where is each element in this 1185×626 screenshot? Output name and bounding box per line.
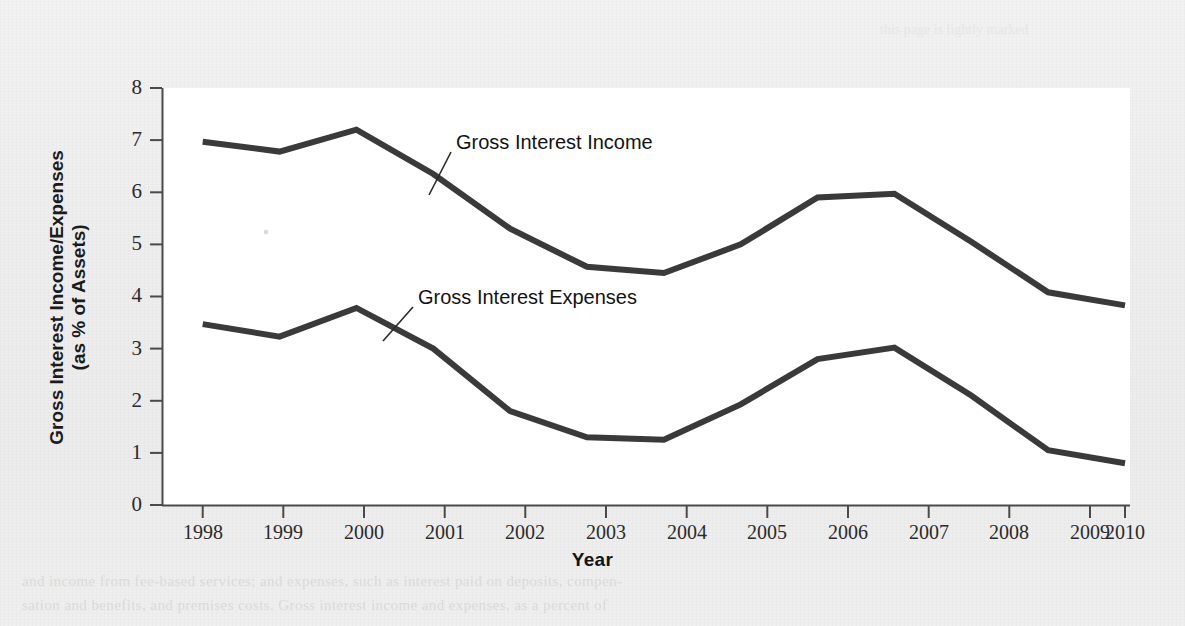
x-axis-title: Year — [0, 549, 1185, 571]
y-axis-title-line2: (as % of Assets) — [68, 150, 90, 445]
x-tick-label: 1998 — [163, 521, 243, 544]
x-tick-label: 2005 — [727, 521, 807, 544]
x-tick-label: 1999 — [243, 521, 323, 544]
y-tick-label: 8 — [108, 75, 142, 100]
y-tick-label: 4 — [108, 283, 142, 308]
x-tick-label: 2007 — [889, 521, 969, 544]
y-tick-label: 0 — [108, 492, 142, 517]
x-tick-label: 2001 — [405, 521, 485, 544]
y-tick-label: 6 — [108, 179, 142, 204]
y-tick-label: 5 — [108, 231, 142, 256]
x-tick-label: 2004 — [647, 521, 727, 544]
y-tick-label: 2 — [108, 388, 142, 413]
y-tick-marks — [150, 88, 162, 505]
x-tick-label: 2003 — [566, 521, 646, 544]
y-axis-title-line1: Gross Interest Income/Expenses — [46, 150, 67, 445]
x-tick-label: 2010 — [1085, 521, 1165, 544]
chart-figure: Gross Interest Income/Expenses (as % of … — [0, 0, 1185, 626]
x-tick-label: 2002 — [485, 521, 565, 544]
x-tick-label: 2006 — [808, 521, 888, 544]
y-tick-label: 3 — [108, 336, 142, 361]
y-axis-title: Gross Interest Income/Expenses (as % of … — [44, 88, 92, 506]
x-tick-marks — [203, 506, 1125, 518]
annotation-gross-interest-expenses: Gross Interest Expenses — [418, 286, 637, 309]
annotation-gross-interest-income: Gross Interest Income — [456, 131, 653, 154]
x-tick-label: 2000 — [324, 521, 404, 544]
x-tick-label: 2008 — [969, 521, 1049, 544]
y-tick-label: 1 — [108, 440, 142, 465]
y-tick-label: 7 — [108, 127, 142, 152]
scan-speck — [264, 230, 268, 234]
